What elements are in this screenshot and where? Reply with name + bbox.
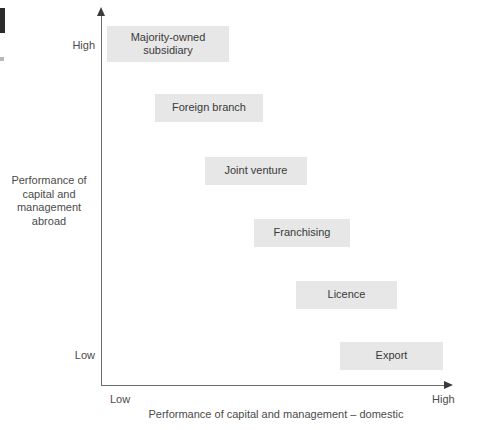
entry-mode-label: Foreign branch (172, 101, 246, 115)
entry-mode-box-franchising: Franchising (254, 219, 350, 247)
y-axis-title-line-4: abroad (6, 215, 92, 229)
entry-mode-label: Franchising (274, 226, 331, 240)
y-axis-low-label: Low (61, 349, 95, 362)
y-axis-title: Performance of capital and management ab… (6, 174, 92, 228)
entry-mode-box-export: Export (340, 342, 443, 370)
page-edge-artifact (0, 8, 5, 33)
entry-mode-box-licence: Licence (296, 281, 397, 309)
y-axis-title-line-1: Performance of (6, 174, 92, 188)
y-axis-title-line-2: capital and (6, 188, 92, 202)
entry-mode-label-line-2: subsidiary (143, 44, 193, 56)
entry-mode-box-majority-owned-subsidiary: Majority-owned subsidiary (107, 26, 229, 62)
entry-mode-label: Licence (328, 288, 366, 302)
y-axis-title-line-3: management (6, 201, 92, 215)
entry-mode-box-foreign-branch: Foreign branch (155, 94, 263, 122)
entry-mode-label: Joint venture (225, 164, 288, 178)
x-axis-title: Performance of capital and management – … (101, 408, 451, 420)
page-edge-artifact-secondary (0, 57, 4, 61)
y-axis-line (101, 14, 102, 386)
entry-mode-label: Majority-owned subsidiary (131, 31, 206, 58)
entry-mode-label: Export (376, 349, 408, 363)
diagram-canvas: High Low Low High Performance of capital… (0, 0, 487, 430)
y-axis-high-label: High (61, 39, 95, 52)
entry-mode-box-joint-venture: Joint venture (205, 157, 307, 185)
x-axis-high-label: High (432, 393, 455, 406)
entry-mode-label-line-1: Majority-owned (131, 31, 206, 43)
x-axis-arrow-icon (444, 381, 453, 389)
y-axis-arrow-icon (97, 7, 105, 16)
x-axis-line (101, 385, 451, 386)
x-axis-low-label: Low (110, 393, 130, 406)
